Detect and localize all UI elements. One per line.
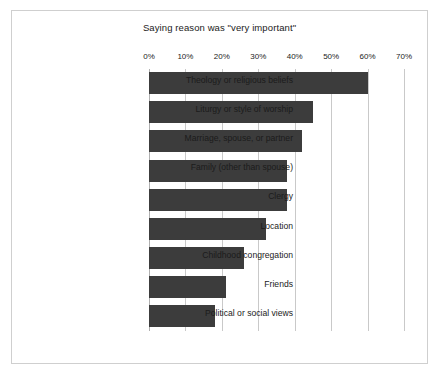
y-category-label: Location: [143, 221, 293, 231]
y-category-label: Theology or religious beliefs: [143, 75, 293, 85]
gridline-70: [404, 69, 405, 331]
y-category-label: Liturgy or style of worship: [143, 104, 293, 114]
y-category-label: Childhood congregation: [143, 250, 293, 260]
chart-figure: Saying reason was "very important" 0%10%…: [0, 0, 439, 376]
y-category-label: Clergy: [143, 191, 293, 201]
y-category-label: Marriage, spouse, or partner: [143, 133, 293, 143]
plot-area: Theology or religious beliefsLiturgy or …: [149, 69, 404, 331]
chart-title: Saying reason was "very important": [0, 22, 439, 33]
y-category-label: Political or social views: [143, 308, 293, 318]
y-category-label: Friends: [143, 279, 293, 289]
y-category-label: Family (other than spouse): [143, 162, 293, 172]
y-axis-category-label-group: Theology or religious beliefsLiturgy or …: [143, 69, 293, 331]
